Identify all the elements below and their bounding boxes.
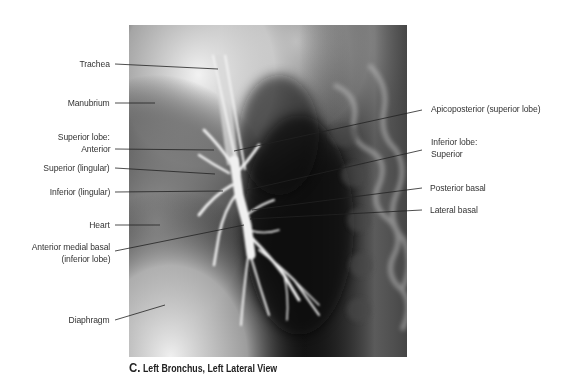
caption-text: Left Bronchus, Left Lateral View (143, 363, 277, 374)
leader-inferior-lobe-superior (247, 150, 422, 190)
label-superior-lingular: Superior (lingular) (44, 162, 110, 174)
leader-trachea (115, 64, 218, 69)
label-inferior-lingular: Inferior (lingular) (49, 186, 110, 198)
leader-inferior-lingular (115, 191, 223, 192)
label-diaphragm: Diaphragm (69, 314, 110, 326)
label-inferior-lobe: Inferior lobe: (431, 136, 477, 148)
label-anterior: Anterior (81, 143, 110, 155)
leader-superior-lingular (115, 168, 215, 174)
leader-superior-lobe-anterior (115, 149, 214, 150)
caption-letter: C. (129, 360, 140, 375)
leader-posterior-basal (252, 188, 422, 210)
label-manubrium: Manubrium (68, 97, 110, 109)
leader-apicoposterior (234, 110, 422, 151)
label-anterior-medial-basal: Anterior medial basal (32, 241, 110, 253)
leader-lateral-basal (250, 210, 422, 219)
figure-caption: C. Left Bronchus, Left Lateral View (129, 360, 277, 375)
label-lateral-basal: Lateral basal (430, 204, 478, 216)
label-apicoposterior: Apicoposterior (superior lobe) (431, 103, 540, 115)
label-posterior-basal: Posterior basal (430, 182, 486, 194)
label-heart: Heart (90, 219, 110, 231)
leader-diaphragm (115, 305, 165, 320)
label-inferior-lobe-superior: Superior (431, 148, 463, 160)
leader-anterior-medial-basal (115, 225, 244, 251)
label-inferior-lobe-paren: (inferior lobe) (61, 253, 110, 265)
label-superior-lobe: Superior lobe: (58, 131, 110, 143)
label-trachea: Trachea (80, 58, 110, 70)
